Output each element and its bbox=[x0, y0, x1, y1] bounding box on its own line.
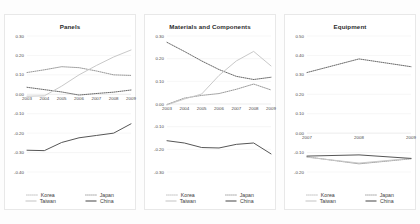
chart-panel-materials-and-components: Materials and Components 0.300.200.100.0… bbox=[144, 14, 276, 210]
series-line-taiwan bbox=[307, 157, 411, 163]
y-axis-tick-label: -0.30 bbox=[14, 150, 25, 155]
x-axis-tick-label: 2008 bbox=[109, 96, 119, 101]
x-axis-tick-label: 2006 bbox=[74, 96, 84, 101]
series-line-japan bbox=[27, 87, 131, 95]
y-axis-tick-label: -0.10 bbox=[14, 112, 25, 117]
plot-svg: 0.500.400.300.200.100.00-0.10-0.20200720… bbox=[285, 32, 417, 178]
y-axis-tick-label: 0.20 bbox=[295, 92, 304, 97]
plot-area: 0.300.200.100.00-0.10-0.20-0.30-0.402003… bbox=[5, 32, 135, 192]
legend-swatch-korea bbox=[166, 193, 178, 197]
legend-item-china[interactable]: China bbox=[350, 199, 409, 204]
y-axis-tick-label: 0.50 bbox=[295, 34, 304, 39]
legend-swatch-china bbox=[365, 199, 377, 203]
plot-area: 0.500.400.300.200.100.00-0.10-0.20200720… bbox=[285, 32, 415, 192]
legend-swatch-japan bbox=[225, 193, 237, 197]
figure-root: Panels 0.300.200.100.00-0.10-0.20-0.30-0… bbox=[0, 0, 420, 224]
y-axis-tick-label: -0.30 bbox=[154, 170, 165, 175]
y-axis-tick-label: 0.10 bbox=[155, 79, 164, 84]
legend-swatch-china bbox=[225, 199, 237, 203]
series-line-japan bbox=[307, 59, 411, 73]
legend-swatch-japan bbox=[85, 193, 97, 197]
series-line-taiwan bbox=[167, 52, 271, 106]
series-line-korea bbox=[167, 84, 271, 104]
legend-item-china[interactable]: China bbox=[70, 199, 129, 204]
y-axis-tick-label: 0.20 bbox=[155, 56, 164, 61]
x-axis-tick-label: 2005 bbox=[197, 106, 207, 111]
legend-swatch-china bbox=[85, 199, 97, 203]
y-axis-tick-label: -0.10 bbox=[294, 150, 305, 155]
chart-panel-equipment: Equipment 0.500.400.300.200.100.00-0.10-… bbox=[284, 14, 416, 210]
legend-swatch-japan bbox=[365, 193, 377, 197]
x-axis-tick-label: 2009 bbox=[406, 135, 416, 140]
panel-title: Panels bbox=[5, 15, 135, 30]
legend-swatch-taiwan bbox=[25, 199, 37, 203]
chart-panel-panels: Panels 0.300.200.100.00-0.10-0.20-0.30-0… bbox=[4, 14, 136, 210]
x-axis-tick-label: 2005 bbox=[57, 96, 67, 101]
legend-label: Taiwan bbox=[320, 199, 336, 204]
plot-svg: 0.300.200.100.00-0.10-0.20-0.30200320042… bbox=[145, 32, 277, 178]
legend-item-taiwan[interactable]: Taiwan bbox=[151, 199, 210, 204]
y-axis-tick-label: 0.10 bbox=[15, 73, 24, 78]
y-axis-tick-label: -0.20 bbox=[154, 147, 165, 152]
legend-label: China bbox=[240, 199, 254, 204]
chart-legend: KoreaJapanTaiwanChina bbox=[5, 193, 135, 209]
y-axis-tick-label: -0.10 bbox=[154, 124, 165, 129]
series-line-china bbox=[307, 155, 411, 159]
y-axis-tick-label: -0.20 bbox=[14, 131, 25, 136]
series-line-china bbox=[167, 141, 271, 154]
series-line-japan bbox=[167, 43, 271, 80]
y-axis-tick-label: 0.30 bbox=[155, 34, 164, 39]
legend-swatch-taiwan bbox=[305, 199, 317, 203]
x-axis-tick-label: 2003 bbox=[162, 106, 172, 111]
plot-area: 0.300.200.100.00-0.10-0.20-0.30200320042… bbox=[145, 32, 275, 192]
x-axis-tick-label: 2008 bbox=[354, 135, 364, 140]
legend-item-china[interactable]: China bbox=[210, 199, 269, 204]
x-axis-tick-label: 2007 bbox=[91, 96, 101, 101]
legend-swatch-korea bbox=[26, 193, 38, 197]
panel-title: Equipment bbox=[285, 15, 415, 30]
legend-swatch-korea bbox=[306, 193, 318, 197]
panel-title: Materials and Components bbox=[145, 15, 275, 30]
y-axis-tick-label: 0.10 bbox=[295, 112, 304, 117]
x-axis-tick-label: 2004 bbox=[39, 96, 49, 101]
y-axis-tick-label: 0.20 bbox=[15, 53, 24, 58]
y-axis-tick-label: -0.20 bbox=[294, 170, 305, 175]
legend-swatch-taiwan bbox=[165, 199, 177, 203]
legend-label: China bbox=[100, 199, 114, 204]
x-axis-tick-label: 2007 bbox=[231, 106, 241, 111]
legend-item-taiwan[interactable]: Taiwan bbox=[291, 199, 350, 204]
y-axis-tick-label: 0.30 bbox=[15, 34, 24, 39]
legend-label: Taiwan bbox=[180, 199, 196, 204]
y-axis-tick-label: -0.40 bbox=[14, 170, 25, 175]
series-line-korea bbox=[27, 67, 131, 76]
x-axis-tick-label: 2007 bbox=[302, 135, 312, 140]
x-axis-tick-label: 2009 bbox=[126, 96, 136, 101]
legend-label: Taiwan bbox=[40, 199, 56, 204]
y-axis-tick-label: 0.30 bbox=[295, 73, 304, 78]
plot-svg: 0.300.200.100.00-0.10-0.20-0.30-0.402003… bbox=[5, 32, 137, 178]
chart-legend: KoreaJapanTaiwanChina bbox=[285, 193, 415, 209]
series-line-china bbox=[27, 124, 131, 151]
x-axis-tick-label: 2008 bbox=[249, 106, 259, 111]
x-axis-tick-label: 2004 bbox=[179, 106, 189, 111]
x-axis-tick-label: 2009 bbox=[266, 106, 276, 111]
legend-item-taiwan[interactable]: Taiwan bbox=[11, 199, 70, 204]
legend-label: China bbox=[380, 199, 394, 204]
y-axis-tick-label: 0.40 bbox=[295, 53, 304, 58]
chart-legend: KoreaJapanTaiwanChina bbox=[145, 193, 275, 209]
x-axis-tick-label: 2006 bbox=[214, 106, 224, 111]
